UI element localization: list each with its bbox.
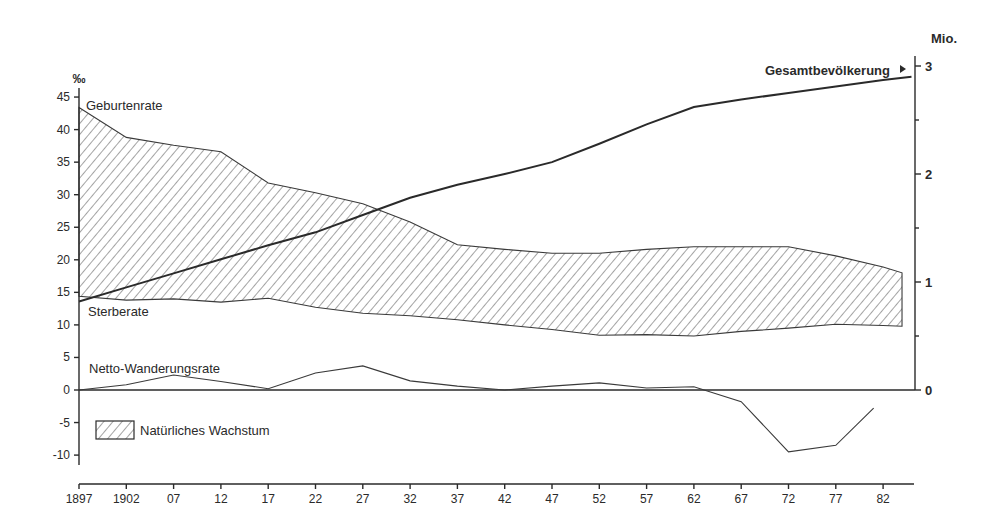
x-tick-label: 27 — [356, 492, 370, 506]
x-tick-label: 37 — [451, 492, 465, 506]
legend-swatch — [96, 421, 134, 439]
right-tick-label: 3 — [925, 59, 932, 74]
x-tick-label: 32 — [403, 492, 417, 506]
right-tick-label: 2 — [925, 167, 932, 182]
x-tick-label: 47 — [545, 492, 559, 506]
x-tick-label: 82 — [876, 492, 890, 506]
x-tick-label: 1902 — [113, 492, 140, 506]
x-tick-label: 67 — [735, 492, 749, 506]
left-tick-label: 15 — [57, 285, 71, 299]
natural-growth-area — [79, 107, 902, 336]
left-tick-label: 40 — [57, 123, 71, 137]
birth-rate-label: Geburtenrate — [86, 98, 163, 113]
x-tick-label: 62 — [687, 492, 701, 506]
left-tick-label: 45 — [57, 90, 71, 104]
x-tick-label: 17 — [262, 492, 276, 506]
left-tick-label: 35 — [57, 155, 71, 169]
x-tick-label: 72 — [782, 492, 796, 506]
migration-rate-line — [79, 366, 874, 452]
left-tick-label: 5 — [63, 350, 70, 364]
left-tick-label: -5 — [59, 416, 70, 430]
right-tick-label: 0 — [925, 383, 932, 398]
legend-label: Natürliches Wachstum — [140, 423, 270, 438]
right-tick-label: 1 — [925, 275, 932, 290]
left-tick-label: 25 — [57, 220, 71, 234]
right-unit-label: Mio. — [931, 31, 957, 46]
left-tick-label: 0 — [63, 383, 70, 397]
demographic-chart: 454035302520151050-5-10 0123 18971902071… — [0, 0, 983, 532]
legend: Natürliches Wachstum — [96, 421, 270, 439]
hatched-region — [79, 107, 902, 336]
left-tick-label: 30 — [57, 188, 71, 202]
x-tick-label: 22 — [309, 492, 323, 506]
migration-rate-label: Netto-Wanderungsrate — [89, 361, 220, 376]
right-axis: 0123 — [915, 56, 932, 398]
x-tick-label: 77 — [829, 492, 843, 506]
left-tick-label: -10 — [53, 448, 71, 462]
population-arrow-icon — [900, 65, 906, 73]
left-unit-label: ‰ — [73, 71, 86, 86]
left-tick-label: 10 — [57, 318, 71, 332]
x-tick-label: 52 — [593, 492, 607, 506]
x-tick-label: 42 — [498, 492, 512, 506]
x-tick-label: 1897 — [66, 492, 93, 506]
left-axis: 454035302520151050-5-10 — [53, 88, 79, 465]
x-tick-label: 12 — [214, 492, 228, 506]
x-tick-label: 07 — [167, 492, 181, 506]
population-label: Gesamtbevölkerung — [765, 63, 890, 78]
left-tick-label: 20 — [57, 253, 71, 267]
x-axis: 1897190207121722273237424752576267727782 — [66, 484, 914, 506]
x-tick-label: 57 — [640, 492, 654, 506]
death-rate-label: Sterberate — [88, 304, 149, 319]
